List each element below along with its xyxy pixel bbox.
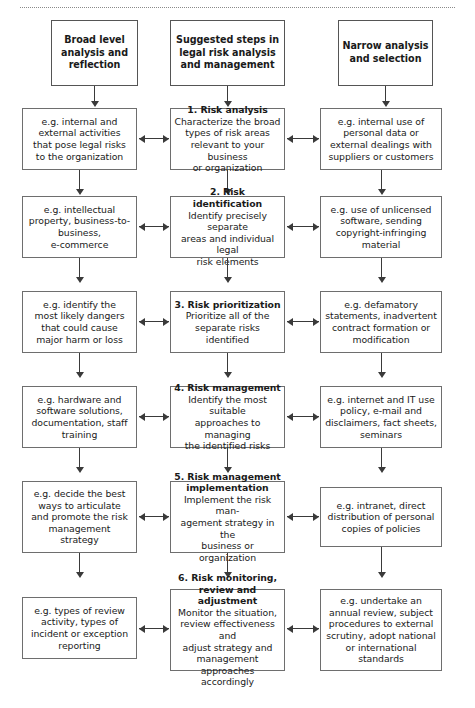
row-1-left-box: e.g. internal andexternal activitiesthat… [22,108,137,170]
row-1-left-text: e.g. internal andexternal activitiesthat… [26,116,133,162]
row-5-right-box: e.g. intranet, directdistribution of per… [320,487,442,547]
row-5-middle-body: Implement the risk man-agement strategy … [181,494,275,563]
row-4-middle-body: Identify the most suitableapproaches to … [185,394,270,451]
column-header-right: Narrow analysisand selection [338,20,433,86]
arrow-down-row-2-left [75,258,84,284]
row-4-middle-title: 4. Risk management [174,382,281,394]
row-2-left-text: e.g. intellectualproperty, business-to-b… [26,204,133,250]
row-2-middle-title: 2. Risk identification [174,186,281,209]
row-6-left-text: e.g. types of reviewactivity, types ofin… [26,605,133,651]
column-header-middle-label: Suggested steps inlegal risk analysisand… [174,34,281,72]
row-4-left-text: e.g. hardware andsoftware solutions,docu… [26,394,133,440]
arrow-down-row-1-left [75,170,84,196]
row-3-left-text: e.g. identify themost likely dangersthat… [26,299,133,345]
row-3-middle-body: Prioritize all of theseparate risks iden… [186,310,270,344]
arrow-bidir-row-4-middle-right [287,412,319,421]
row-6-middle-title: 6. Risk monitoring,review and adjustment [174,572,281,607]
row-5-left-text: e.g. decide the bestways to articulatean… [26,488,133,546]
row-6-left-box: e.g. types of reviewactivity, types ofin… [22,597,137,659]
arrow-bidir-row-5-left-middle [139,512,169,521]
row-5-middle-title: 5. Risk managementimplementation [174,471,281,494]
top-dotted-divider [20,7,455,8]
row-2-left-box: e.g. intellectualproperty, business-to-b… [22,196,137,258]
arrow-bidir-row-2-middle-right [287,222,319,231]
row-2-middle-box: 2. Risk identificationIdentify precisely… [170,196,285,258]
row-3-middle-box: 3. Risk prioritizationPrioritize all of … [170,291,285,353]
arrow-down-row-4-right [377,448,386,474]
row-4-right-text: e.g. internet and IT usepolicy, e-mail a… [324,394,438,440]
row-4-left-box: e.g. hardware andsoftware solutions,docu… [22,386,137,448]
arrow-down-row-3-right [377,353,386,379]
row-1-middle-title: 1. Risk analysis [174,104,281,116]
arrow-down-row-5-left [75,553,84,579]
arrow-down-row-1-right [377,170,386,196]
row-2-middle-body: Identify precisely separateareas and ind… [181,210,274,267]
arrow-down-row-5-right [377,547,386,579]
row-6-middle-body: Monitor the situation,review effectivene… [178,607,277,688]
row-3-right-box: e.g. defamatorystatements, inadvertentco… [320,291,442,353]
arrow-bidir-row-3-middle-right [287,317,319,326]
arrow-down-row-3-middle [223,353,232,379]
row-4-middle-box: 4. Risk managementIdentify the most suit… [170,386,285,448]
row-1-right-text: e.g. internal use ofpersonal data orexte… [324,116,438,162]
column-header-middle: Suggested steps inlegal risk analysisand… [170,20,285,86]
row-1-middle-box: 1. Risk analysisCharacterize the broadty… [170,108,285,170]
arrow-bidir-row-4-left-middle [139,412,169,421]
arrow-bidir-row-2-left-middle [139,222,169,231]
column-header-right-label: Narrow analysisand selection [342,40,429,65]
row-6-right-box: e.g. undertake anannual review, subjectp… [320,589,442,671]
row-3-right-text: e.g. defamatorystatements, inadvertentco… [324,299,438,345]
column-header-left: Broad levelanalysis andreflection [51,20,138,86]
row-6-right-text: e.g. undertake anannual review, subjectp… [324,595,438,665]
arrow-down-row-3-left [75,353,84,379]
row-2-right-text: e.g. use of unlicensedsoftware, sendingc… [324,204,438,250]
arrow-bidir-row-3-left-middle [139,317,169,326]
row-4-right-box: e.g. internet and IT usepolicy, e-mail a… [320,386,442,448]
arrow-bidir-row-5-middle-right [287,512,319,521]
arrow-bidir-row-6-middle-right [287,624,319,633]
arrow-down-header-left [90,86,99,108]
row-3-middle-title: 3. Risk prioritization [174,299,281,311]
row-2-right-box: e.g. use of unlicensedsoftware, sendingc… [320,196,442,258]
row-5-middle-box: 5. Risk managementimplementationImplemen… [170,481,285,553]
row-5-left-box: e.g. decide the bestways to articulatean… [22,481,137,553]
legal-risk-management-flow-diagram: Broad levelanalysis andreflection Sugges… [0,0,475,708]
column-header-left-label: Broad levelanalysis andreflection [55,34,134,72]
arrow-down-row-2-right [377,258,386,284]
row-6-middle-box: 6. Risk monitoring,review and adjustment… [170,589,285,671]
arrow-down-row-4-left [75,448,84,474]
arrow-bidir-row-1-left-middle [139,134,169,143]
row-1-middle-body: Characterize the broadtypes of risk area… [175,116,281,173]
arrow-bidir-row-1-middle-right [287,134,319,143]
arrow-down-header-right [381,86,390,108]
arrow-bidir-row-6-left-middle [139,624,169,633]
row-3-left-box: e.g. identify themost likely dangersthat… [22,291,137,353]
row-5-right-text: e.g. intranet, directdistribution of per… [324,500,438,535]
row-1-right-box: e.g. internal use ofpersonal data orexte… [320,108,442,170]
